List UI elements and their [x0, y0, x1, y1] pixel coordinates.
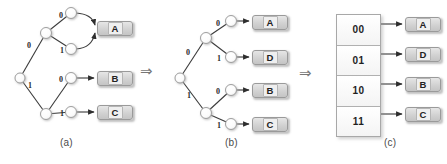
panel-c-leaf-label-a: A	[416, 18, 431, 31]
panel-a-node-leaf-11	[66, 107, 77, 118]
panel-a-leaf-label-c: C	[108, 106, 123, 119]
panel-a-edge-root-0	[20, 33, 46, 78]
lookup-table-row-10: 10	[337, 76, 380, 107]
panel-a-node-leaf-01	[66, 44, 77, 55]
panel-a-leaf-label-b: B	[108, 72, 123, 85]
panel-a-leaf-box-c: C	[97, 105, 133, 120]
panel-a-edge-label-0: 0	[27, 42, 31, 50]
panel-b-node-leaf-00	[226, 16, 237, 27]
panel-a-leaf-label-a: A	[108, 22, 123, 35]
lookup-table-row-01: 01	[337, 46, 380, 77]
panel-b-node-internal-1	[201, 108, 212, 119]
panel-b-leaf-box-c: C	[252, 117, 288, 132]
panel-b-node-root	[175, 73, 185, 83]
panel-b-edge-root-0	[180, 38, 206, 78]
lookup-table: 00 01 10 11	[336, 14, 381, 137]
panel-b-edge-label-1: 1	[187, 92, 191, 100]
panel-a-leaf-box-a: A	[97, 21, 133, 36]
panel-c-leaf-box-c: C	[405, 107, 441, 122]
lookup-table-row-11: 11	[337, 107, 380, 137]
panel-a-leaf-box-b: B	[97, 71, 133, 86]
panel-a-arrow-to-a-upper	[76, 13, 95, 25]
panel-a-node-leaf-00	[66, 8, 77, 19]
panel-b-edge-label-2: 0	[216, 20, 220, 28]
panel-b-leaf-label-c: C	[263, 118, 278, 131]
panel-a-node-internal-0	[41, 28, 52, 39]
panel-c-leaf-label-c: C	[416, 108, 431, 121]
panel-b-graph	[175, 16, 249, 130]
panel-b-edge-label-5: 1	[217, 122, 221, 130]
implication-arrow-b-to-c-icon: ⇒	[299, 66, 312, 81]
panel-c-arrows	[381, 24, 402, 114]
panel-b-leaf-box-a: A	[252, 15, 288, 30]
panel-a-graph	[15, 8, 95, 120]
panel-c-leaf-label-b: B	[416, 78, 431, 91]
panel-b-leaf-box-d: D	[252, 50, 288, 65]
panel-c-leaf-box-d: D	[405, 47, 441, 62]
panel-caption-c: (c)	[384, 137, 396, 148]
panel-b-leaf-box-b: B	[252, 83, 288, 98]
panel-b-edge-label-0: 0	[186, 49, 190, 57]
panel-a-node-internal-1	[41, 109, 52, 120]
panel-caption-a: (a)	[60, 137, 73, 148]
panel-a-edge-label-3: 1	[60, 47, 64, 55]
panel-b-node-leaf-11	[226, 119, 237, 130]
lookup-table-row-00: 00	[337, 15, 380, 46]
panel-a-edge-root-1	[20, 78, 46, 114]
panel-b-leaf-label-b: B	[263, 84, 278, 97]
implication-arrow-a-to-b-icon: ⇒	[140, 64, 153, 79]
panel-c-leaf-label-d: D	[416, 48, 431, 61]
panel-a-edge-label-4: 0	[59, 76, 63, 84]
panel-a-node-leaf-10	[66, 73, 77, 84]
panel-b-edge-label-3: 1	[217, 55, 221, 63]
panel-a-node-root	[15, 73, 25, 83]
panel-b-edge-label-4: 0	[216, 88, 220, 96]
panel-caption-b: (b)	[225, 137, 238, 148]
panel-b-node-leaf-10	[226, 85, 237, 96]
panel-c-leaf-box-a: A	[405, 17, 441, 32]
figure-root: 0 1 0 1 0 1 A B C ⇒ 0 1 0 1 0 1 A D B C …	[0, 0, 447, 164]
panel-c-leaf-box-b: B	[405, 77, 441, 92]
panel-a-arrow-to-a-lower	[76, 33, 95, 49]
panel-a-edge-label-5: 1	[60, 110, 64, 118]
panel-b-leaf-label-d: D	[263, 51, 278, 64]
panel-b-leaf-label-a: A	[263, 16, 278, 29]
panel-b-node-leaf-01	[226, 52, 237, 63]
panel-b-edge-root-1	[180, 78, 206, 113]
panel-b-node-internal-0	[201, 33, 212, 44]
panel-a-edge-label-1: 1	[28, 82, 32, 90]
panel-a-edge-label-2: 0	[59, 12, 63, 20]
